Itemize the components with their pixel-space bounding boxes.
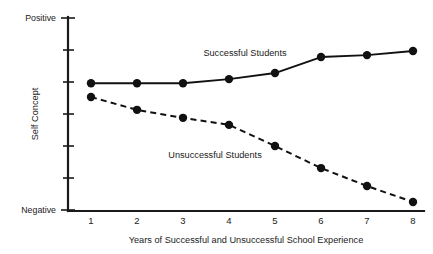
data-point	[409, 47, 417, 55]
data-point	[133, 79, 141, 87]
data-point	[179, 114, 187, 122]
data-point	[363, 182, 371, 190]
x-tick-label-8: 8	[410, 215, 415, 226]
chart-figure: Positive Negative Self Concept 1 2 3 4 5…	[0, 0, 433, 254]
data-point	[409, 198, 417, 206]
x-tick-label-5: 5	[272, 215, 277, 226]
data-point	[225, 75, 233, 83]
x-tick-label-1: 1	[88, 215, 93, 226]
line-chart-canvas: Positive Negative Self Concept 1 2 3 4 5…	[0, 0, 433, 254]
x-tick-label-6: 6	[318, 215, 323, 226]
series-label-unsuccessful-students: Unsuccessful Students	[168, 150, 262, 160]
x-axis-title: Years of Successful and Unsuccessful Sch…	[129, 235, 364, 245]
data-point	[225, 121, 233, 129]
data-point	[133, 106, 141, 114]
data-point	[317, 53, 325, 61]
x-tick-label-3: 3	[180, 215, 185, 226]
series-label-successful-students: Successful Students	[203, 48, 287, 58]
data-point	[271, 69, 279, 77]
x-tick-label-7: 7	[364, 215, 369, 226]
data-point	[87, 79, 95, 87]
y-axis-bottom-label: Negative	[21, 205, 56, 215]
data-point	[317, 164, 325, 172]
data-point	[179, 79, 187, 87]
y-axis-title: Self Concept	[30, 87, 40, 140]
x-tick-label-2: 2	[134, 215, 139, 226]
data-point	[87, 93, 95, 101]
x-tick-label-4: 4	[226, 215, 231, 226]
x-axis-tick-labels: 1 2 3 4 5 6 7 8	[88, 215, 415, 226]
data-point	[271, 142, 279, 150]
y-axis-top-label: Positive	[25, 13, 56, 23]
data-point	[363, 51, 371, 59]
